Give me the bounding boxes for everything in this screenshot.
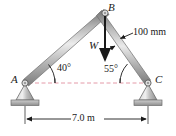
load-label-w: W bbox=[89, 40, 98, 51]
angle-arc-55 bbox=[120, 64, 128, 83]
thickness-label: 100 mm bbox=[133, 27, 166, 37]
statics-frame-figure: B A C W 40° 55° 100 mm 7.0 m bbox=[0, 0, 176, 136]
span-label: 7.0 m bbox=[72, 113, 95, 123]
angle-label-right: 55° bbox=[104, 64, 118, 74]
angle-label-left: 40° bbox=[57, 63, 71, 73]
joint-label-a: A bbox=[11, 74, 18, 85]
joint-label-c: C bbox=[155, 74, 162, 85]
thickness-leader-upper bbox=[121, 33, 134, 39]
joint-label-b: B bbox=[108, 2, 115, 13]
